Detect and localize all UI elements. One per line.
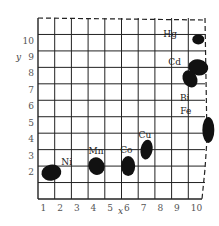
element-blob-fe <box>202 117 214 143</box>
element-blob-cu <box>139 139 154 161</box>
y-tick-labels: 2345678910 <box>23 36 35 178</box>
x-tick-label: 5 <box>107 203 113 213</box>
x-tick-label: 8 <box>157 203 163 213</box>
x-tick-label: 4 <box>91 203 97 213</box>
element-label-fe: Fe <box>180 106 191 116</box>
y-tick-label: 7 <box>28 85 34 95</box>
element-label-hg: Hg <box>163 29 177 39</box>
y-tick-label: 2 <box>28 167 34 177</box>
x-tick-label: 6 <box>124 203 130 213</box>
x-tick-label: 7 <box>141 203 147 213</box>
element-label-mn: Mn <box>88 146 103 156</box>
element-blob-mn <box>86 155 107 177</box>
y-tick-label: 9 <box>28 52 34 62</box>
element-label-ni: Ni <box>61 157 72 167</box>
x-tick-label: 3 <box>74 203 80 213</box>
x-tick-label: 1 <box>41 203 47 213</box>
element-grid-diagram: NiMnCoCuHgCdBiFe 12345678910 2345678910 … <box>0 0 219 226</box>
x-tick-label: 2 <box>57 203 63 213</box>
x-axis-title: x <box>118 206 123 216</box>
element-label-cu: Cu <box>139 130 152 140</box>
element-label-cd: Cd <box>168 57 181 67</box>
y-tick-label: 5 <box>28 118 34 128</box>
y-tick-label: 10 <box>23 36 35 46</box>
y-tick-label: 3 <box>28 151 34 161</box>
element-label-bi: Bi <box>180 93 190 103</box>
grid-border-right <box>202 18 207 199</box>
x-tick-label: 9 <box>174 203 180 213</box>
element-blob-hg <box>192 34 204 44</box>
element-label-co: Co <box>120 145 132 155</box>
x-tick-label: 10 <box>191 203 203 213</box>
y-tick-label: 6 <box>28 101 34 111</box>
element-blob-co <box>121 156 135 176</box>
y-tick-label: 4 <box>28 134 34 144</box>
y-axis-title: y <box>15 52 22 62</box>
y-tick-label: 8 <box>28 68 34 78</box>
